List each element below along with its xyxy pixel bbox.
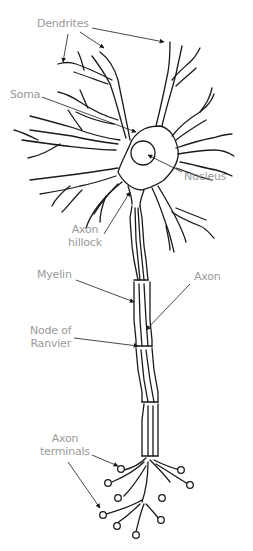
label-terminals-line2: terminals bbox=[40, 445, 90, 458]
label-node-of-ranvier: Node of Ranvier bbox=[30, 324, 71, 350]
dendrites-upper-left bbox=[14, 52, 130, 158]
label-axon-terminals: Axon terminals bbox=[40, 432, 90, 458]
label-axon-hillock: Axon hillock bbox=[68, 223, 102, 249]
leader-axon-terminals-1 bbox=[92, 455, 118, 466]
leader-dendrites-2 bbox=[80, 32, 104, 48]
label-nucleus: Nucleus bbox=[184, 170, 226, 183]
label-axon-text: Axon bbox=[194, 270, 221, 283]
soma-shape bbox=[118, 126, 178, 190]
nucleus-shape bbox=[131, 141, 155, 165]
leader-axon-hillock bbox=[104, 192, 130, 234]
label-terminals-line1: Axon bbox=[40, 432, 90, 445]
axon-myelin-segments bbox=[130, 206, 158, 456]
label-node-line2: Ranvier bbox=[30, 337, 71, 350]
leader-nucleus bbox=[148, 155, 182, 172]
dendrites-lower-right bbox=[152, 186, 214, 252]
label-nucleus-text: Nucleus bbox=[184, 170, 226, 183]
leader-axon bbox=[146, 284, 190, 330]
axon-terminals-shape bbox=[100, 458, 194, 538]
label-dendrites: Dendrites bbox=[37, 17, 89, 30]
label-soma-text: Soma bbox=[10, 88, 40, 101]
leader-dendrites-3 bbox=[92, 28, 164, 42]
dendrites-lower-left bbox=[30, 168, 122, 228]
leader-dendrites-1 bbox=[63, 34, 68, 62]
dendrites-upper-right bbox=[156, 42, 234, 180]
label-axon-hillock-line2: hillock bbox=[68, 236, 102, 249]
label-axon-hillock-line1: Axon bbox=[68, 223, 102, 236]
label-myelin-text: Myelin bbox=[37, 268, 72, 281]
leader-node-of-ranvier bbox=[74, 338, 138, 346]
label-soma: Soma bbox=[10, 88, 40, 101]
label-axon: Axon bbox=[194, 270, 221, 283]
label-myelin: Myelin bbox=[37, 268, 72, 281]
leader-axon-terminals-2 bbox=[68, 462, 100, 508]
label-dendrites-text: Dendrites bbox=[37, 17, 89, 30]
label-node-line1: Node of bbox=[30, 324, 71, 337]
leader-myelin bbox=[76, 280, 134, 302]
